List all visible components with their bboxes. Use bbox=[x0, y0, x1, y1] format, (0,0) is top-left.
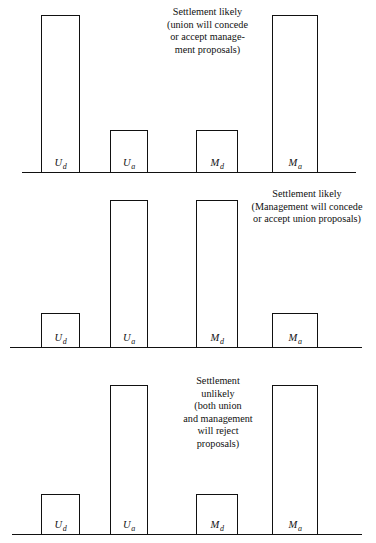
panel-1-bar-ua-label: Ua bbox=[111, 157, 147, 169]
panel-2-bar-ua-label: Ua bbox=[111, 332, 147, 344]
panel-2-bar-md-label: Md bbox=[197, 332, 237, 344]
panel-1-bar-ud-label: Ud bbox=[42, 157, 79, 169]
panel-1-caption: Settlement likely (union will concede or… bbox=[145, 6, 270, 56]
panel-1-bar-ma-label: Ma bbox=[273, 157, 317, 169]
panel-3: Ud Ua Md Ma Settlement unlikely (both un… bbox=[0, 360, 376, 543]
panel-2-bar-ud: Ud bbox=[41, 313, 80, 347]
panel-1-baseline bbox=[22, 172, 356, 173]
panel-3-bar-ud-label: Ud bbox=[42, 519, 79, 531]
panel-2-bar-ma-label: Ma bbox=[273, 332, 317, 344]
panel-1-bar-md: Md bbox=[196, 130, 238, 172]
panel-3-bar-ma: Ma bbox=[272, 385, 318, 534]
panel-2-caption: Settlement likely (Management will conce… bbox=[240, 188, 374, 226]
panel-2-baseline bbox=[10, 347, 362, 348]
panel-1-bar-ua: Ua bbox=[110, 130, 148, 172]
panel-1-bar-md-label: Md bbox=[197, 157, 237, 169]
panel-3-bar-md: Md bbox=[196, 494, 238, 534]
panel-3-bar-ma-label: Ma bbox=[273, 519, 317, 531]
panel-2: Ud Ua Md Ma Settlement likely (Managemen… bbox=[0, 182, 376, 360]
bargaining-outcome-figure: Ud Ua Md Ma Settlement likely (union wil… bbox=[0, 0, 376, 543]
panel-2-bar-md: Md bbox=[196, 200, 238, 347]
panel-1: Ud Ua Md Ma Settlement likely (union wil… bbox=[0, 0, 376, 182]
panel-2-bar-ua: Ua bbox=[110, 200, 148, 347]
panel-2-bar-ma: Ma bbox=[272, 313, 318, 347]
panel-2-bar-ud-label: Ud bbox=[42, 332, 79, 344]
panel-3-caption: Settlement unlikely (both union and mana… bbox=[160, 375, 276, 451]
panel-3-bar-ud: Ud bbox=[41, 494, 80, 534]
panel-1-bar-ma: Ma bbox=[272, 15, 318, 172]
panel-3-bar-ua: Ua bbox=[110, 385, 148, 534]
panel-3-baseline bbox=[12, 534, 362, 535]
panel-3-bar-ua-label: Ua bbox=[111, 519, 147, 531]
panel-1-bar-ud: Ud bbox=[41, 15, 80, 172]
panel-3-bar-md-label: Md bbox=[197, 519, 237, 531]
